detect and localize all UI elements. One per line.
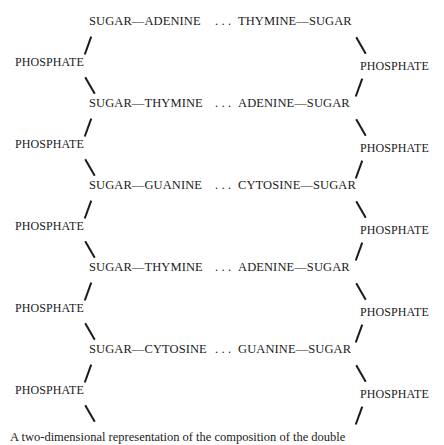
phosphate-left: PHOSPHATE [15,301,84,316]
base-pair-left: SUGAR—GUANINE [89,178,202,193]
phosphate-right: PHOSPHATE [360,305,429,320]
hydrogen-bond-dots: . . . [215,342,231,357]
phosphate-right: PHOSPHATE [360,387,429,402]
base-pair-left: SUGAR—THYMINE [89,260,203,275]
bond-line-icon [84,282,92,300]
bond-line-icon [84,77,95,94]
phosphate-left: PHOSPHATE [15,219,84,234]
phosphate-right: PHOSPHATE [360,223,429,238]
hydrogen-bond-dots: . . . [215,14,231,29]
bond-line-icon [355,324,363,342]
bond-line-icon [355,160,363,178]
bond-line-icon [84,364,92,382]
bond-line-icon [355,37,366,54]
bond-line-icon [84,36,92,54]
base-pair-right: ADENINE—SUGAR [238,96,350,111]
bond-line-icon [84,323,95,340]
base-pair-right: THYMINE—SUGAR [238,14,352,29]
bond-line-icon [355,406,363,424]
bond-line-icon [355,365,366,382]
base-pair-left: SUGAR—THYMINE [89,96,203,111]
phosphate-right: PHOSPHATE [360,141,429,156]
bond-line-icon [84,241,95,258]
figure-caption: A two-dimensional representation of the … [10,430,345,445]
phosphate-left: PHOSPHATE [15,137,84,152]
base-pair-right: ADENINE—SUGAR [238,260,350,275]
base-pair-right: CYTOSINE—SUGAR [238,178,356,193]
hydrogen-bond-dots: . . . [215,178,231,193]
base-pair-left: SUGAR—ADENINE [89,14,201,29]
base-pair-left: SUGAR—CYTOSINE [89,342,207,357]
bond-line-icon [355,283,366,300]
bond-line-icon [84,118,92,136]
hydrogen-bond-dots: . . . [215,96,231,111]
phosphate-right: PHOSPHATE [360,59,429,74]
phosphate-left: PHOSPHATE [15,55,84,70]
bond-line-icon [355,78,363,96]
bond-line-icon [355,119,366,136]
bond-line-icon [84,159,95,176]
bond-line-icon [355,242,363,260]
hydrogen-bond-dots: . . . [215,260,231,275]
base-pair-right: GUANINE—SUGAR [238,342,351,357]
bond-line-icon [84,405,95,422]
bond-line-icon [84,200,92,218]
bond-line-icon [355,201,366,218]
phosphate-left: PHOSPHATE [15,383,84,398]
